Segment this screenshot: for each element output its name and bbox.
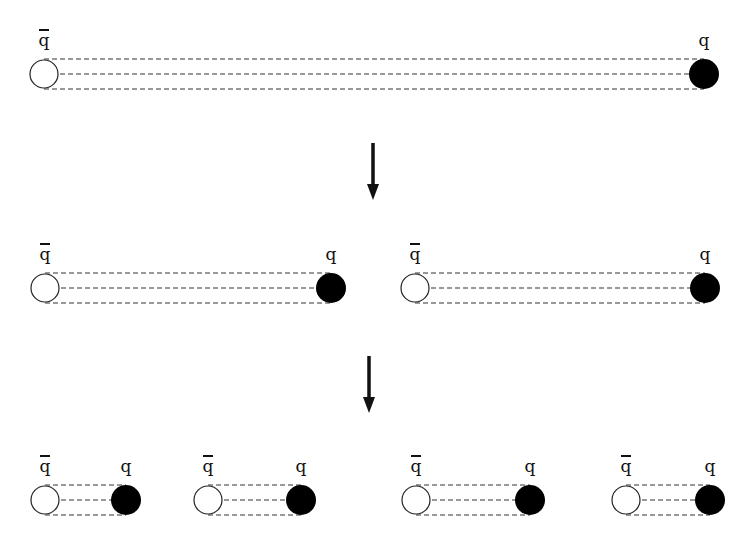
stage-1 bbox=[30, 59, 719, 89]
quark-pair bbox=[30, 59, 719, 89]
quark-label: q bbox=[700, 246, 711, 263]
antiquark-overbar bbox=[621, 455, 631, 457]
antiquark-label: q bbox=[411, 458, 422, 475]
quark-label: q bbox=[326, 246, 337, 263]
antiquark-overbar bbox=[40, 243, 50, 245]
quark-circle bbox=[286, 485, 316, 515]
antiquark-label: q bbox=[40, 246, 51, 263]
antiquark-label: q bbox=[203, 458, 214, 475]
quark-circle bbox=[515, 485, 545, 515]
down-arrow-icon bbox=[363, 356, 375, 413]
quark-label: q bbox=[705, 458, 716, 475]
antiquark-circle bbox=[612, 486, 640, 514]
stage-3 bbox=[31, 485, 725, 515]
quark-pair bbox=[31, 273, 346, 303]
quark-label: q bbox=[121, 458, 132, 475]
antiquark-circle bbox=[31, 486, 59, 514]
stage-2 bbox=[31, 273, 720, 303]
antiquark-label: q bbox=[621, 458, 632, 475]
antiquark-circle bbox=[401, 274, 429, 302]
quark-pair bbox=[401, 273, 720, 303]
quark-label: q bbox=[296, 458, 307, 475]
antiquark-circle bbox=[402, 486, 430, 514]
antiquark-overbar bbox=[40, 455, 50, 457]
quark-circle bbox=[690, 273, 720, 303]
antiquark-label: q bbox=[410, 246, 421, 263]
diagram-canvas bbox=[0, 0, 750, 543]
quark-pair bbox=[31, 485, 141, 515]
antiquark-overbar bbox=[39, 29, 49, 31]
quark-pair bbox=[194, 485, 316, 515]
antiquark-overbar bbox=[203, 455, 213, 457]
down-arrow-icon bbox=[367, 143, 379, 200]
quark-circle bbox=[689, 59, 719, 89]
quark-circle bbox=[316, 273, 346, 303]
quark-label: q bbox=[699, 32, 710, 49]
antiquark-overbar bbox=[411, 455, 421, 457]
quark-circle bbox=[695, 485, 725, 515]
antiquark-circle bbox=[31, 274, 59, 302]
antiquark-circle bbox=[194, 486, 222, 514]
quark-pair bbox=[402, 485, 545, 515]
quark-label: q bbox=[525, 458, 536, 475]
antiquark-label: q bbox=[39, 32, 50, 49]
antiquark-circle bbox=[30, 60, 58, 88]
quark-pair bbox=[612, 485, 725, 515]
quark-circle bbox=[111, 485, 141, 515]
antiquark-overbar bbox=[410, 243, 420, 245]
antiquark-label: q bbox=[40, 458, 51, 475]
